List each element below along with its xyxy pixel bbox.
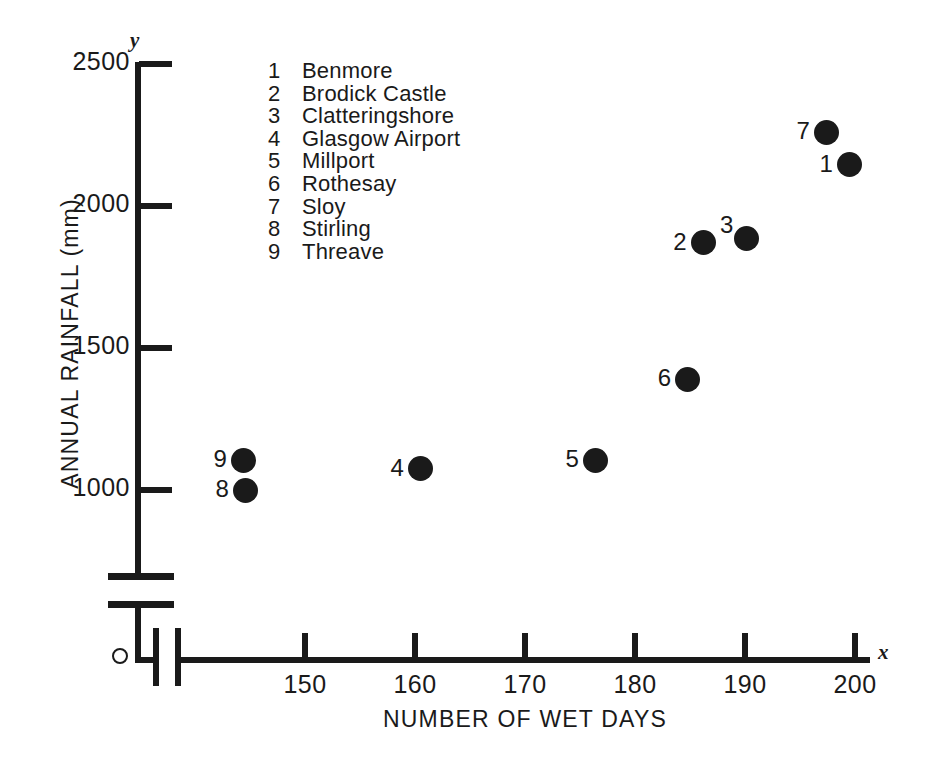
legend-item-key: 9: [268, 241, 302, 264]
data-point-label: 6: [658, 364, 671, 392]
legend-item: 6Rothesay: [268, 173, 460, 196]
data-point-marker: [691, 230, 716, 255]
data-point-marker: [734, 226, 759, 251]
data-point-marker: [233, 478, 258, 503]
data-point-marker: [837, 152, 862, 177]
legend-item-key: 1: [268, 60, 302, 83]
x-axis-letter: x: [878, 640, 889, 665]
x-tick: [522, 633, 528, 659]
data-point-label: 3: [720, 211, 733, 239]
x-tick-label: 150: [260, 670, 350, 699]
data-point-label: 5: [565, 445, 578, 473]
x-tick: [412, 633, 418, 659]
x-tick-label: 190: [700, 670, 790, 699]
data-point-marker: [408, 456, 433, 481]
x-tick: [742, 633, 748, 659]
legend-item: 5Millport: [268, 150, 460, 173]
legend-item-label: Stirling: [302, 218, 371, 241]
legend-item: 1Benmore: [268, 60, 460, 83]
legend-item: 3Clatteringshore: [268, 105, 460, 128]
data-point-marker: [814, 120, 839, 145]
data-point-label: 7: [796, 117, 809, 145]
x-tick-label: 180: [590, 670, 680, 699]
x-tick-label: 160: [370, 670, 460, 699]
y-axis-letter: y: [130, 28, 139, 53]
legend-item-key: 5: [268, 150, 302, 173]
legend-item-label: Benmore: [302, 60, 393, 83]
y-tick: [139, 345, 172, 351]
x-axis-title: NUMBER OF WET DAYS: [180, 706, 870, 733]
legend-item-key: 7: [268, 196, 302, 219]
legend-item: 8Stirling: [268, 218, 460, 241]
y-axis-break-mark-upper: [108, 573, 174, 580]
legend-item-key: 6: [268, 173, 302, 196]
data-point-label: 8: [216, 475, 229, 503]
x-tick: [852, 633, 858, 659]
legend-item-label: Rothesay: [302, 173, 397, 196]
legend-item: 2Brodick Castle: [268, 83, 460, 106]
legend-item-key: 4: [268, 128, 302, 151]
data-point-label: 2: [673, 228, 686, 256]
y-axis-break-mark-lower: [108, 601, 174, 608]
y-tick-label: 2500: [12, 47, 130, 76]
x-axis-break-mark-left: [153, 628, 159, 686]
data-point-label: 4: [391, 454, 404, 482]
scatter-chart: y x 1000150020002500 150160170180190200 …: [0, 0, 939, 770]
x-tick: [302, 633, 308, 659]
legend-item-key: 8: [268, 218, 302, 241]
legend-item-label: Brodick Castle: [302, 83, 447, 106]
legend-item-label: Glasgow Airport: [302, 128, 460, 151]
data-point-marker: [675, 367, 700, 392]
data-point-label: 1: [820, 150, 833, 178]
legend-item-label: Millport: [302, 150, 375, 173]
x-tick-label: 200: [810, 670, 900, 699]
data-point-label: 9: [213, 445, 226, 473]
legend-item: 7Sloy: [268, 196, 460, 219]
legend-item-label: Sloy: [302, 196, 346, 219]
x-tick-label: 170: [480, 670, 570, 699]
y-tick: [139, 61, 172, 67]
legend-item-key: 3: [268, 105, 302, 128]
y-axis-line: [135, 62, 141, 574]
data-point-marker: [231, 448, 256, 473]
legend-item-label: Threave: [302, 241, 384, 264]
legend-item-label: Clatteringshore: [302, 105, 454, 128]
y-axis-lower-stub: [135, 607, 141, 663]
y-tick: [139, 203, 172, 209]
legend: 1Benmore2Brodick Castle3Clatteringshore4…: [268, 60, 460, 263]
origin-marker: [112, 648, 128, 664]
y-axis-title: ANNUAL RAINFALL (mm): [57, 134, 84, 554]
y-tick: [139, 487, 172, 493]
legend-item: 4Glasgow Airport: [268, 128, 460, 151]
legend-item: 9Threave: [268, 241, 460, 264]
x-tick: [632, 633, 638, 659]
data-point-marker: [583, 448, 608, 473]
legend-item-key: 2: [268, 83, 302, 106]
